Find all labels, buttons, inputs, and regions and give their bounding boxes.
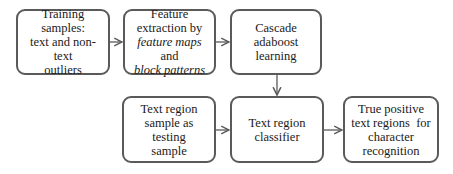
node-text: classifier bbox=[248, 130, 305, 144]
node-text: text and non-text bbox=[21, 35, 105, 63]
node-text: Text region bbox=[127, 102, 211, 116]
node-text: adaboost bbox=[254, 35, 298, 49]
node-text: Text region bbox=[248, 116, 305, 130]
node-text: True positive bbox=[351, 102, 431, 116]
node-text: outliers bbox=[21, 63, 105, 77]
node-testing-sample: Text region sample as testing sample bbox=[122, 96, 216, 163]
node-text-line3: feature maps and bbox=[128, 35, 211, 63]
node-text: Training samples: bbox=[21, 7, 105, 35]
node-text: recognition bbox=[351, 144, 431, 158]
node-text-region-classifier: Text region classifier bbox=[230, 96, 324, 163]
node-text: Feature bbox=[128, 7, 211, 21]
node-text: Cascade bbox=[254, 21, 298, 35]
node-cascade-adaboost: Cascade adaboost learning bbox=[230, 9, 322, 75]
node-text: sample as testing bbox=[127, 116, 211, 144]
node-text-line4: block patterns bbox=[128, 63, 211, 77]
node-text: learning bbox=[254, 49, 298, 63]
node-text: extraction by bbox=[128, 21, 211, 35]
node-feature-extraction: Feature extraction by feature maps and b… bbox=[123, 9, 216, 75]
node-training-samples: Training samples: text and non-text outl… bbox=[16, 9, 110, 75]
node-text: text regions for bbox=[351, 116, 431, 130]
node-text: sample bbox=[127, 144, 211, 158]
node-text-italic: feature maps bbox=[137, 35, 201, 49]
node-text: and bbox=[160, 49, 178, 63]
node-text-italic: block patterns bbox=[134, 63, 205, 77]
node-text: character bbox=[351, 130, 431, 144]
node-true-positive-output: True positive text regions for character… bbox=[343, 96, 439, 163]
